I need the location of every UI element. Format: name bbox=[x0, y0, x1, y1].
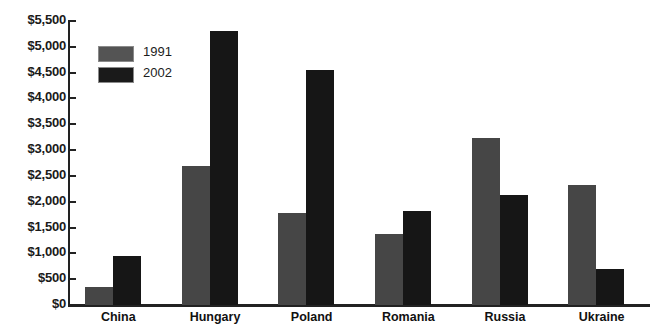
bar-group bbox=[553, 21, 650, 305]
bar-russia-1991 bbox=[472, 138, 500, 305]
legend-swatch-2002 bbox=[98, 67, 134, 83]
x-axis-label-poland: Poland bbox=[263, 310, 360, 324]
x-axis-label-hungary: Hungary bbox=[167, 310, 264, 324]
bar-group bbox=[263, 21, 360, 305]
bar-poland-1991 bbox=[278, 213, 306, 305]
chart-legend: 19912002 bbox=[98, 44, 218, 86]
legend-item-1991: 1991 bbox=[98, 44, 218, 62]
legend-label-2002: 2002 bbox=[143, 65, 172, 80]
bar-russia-2002 bbox=[500, 195, 528, 305]
x-axis-label-ukraine: Ukraine bbox=[553, 310, 650, 324]
bar-poland-2002 bbox=[306, 70, 334, 305]
y-axis-tick-label: $2,000 bbox=[0, 193, 66, 208]
y-axis-tick-label: $0 bbox=[0, 296, 66, 311]
legend-item-2002: 2002 bbox=[98, 65, 218, 83]
x-axis-label-russia: Russia bbox=[457, 310, 554, 324]
legend-swatch-1991 bbox=[98, 46, 134, 62]
y-axis-tick-label: $5,000 bbox=[0, 38, 66, 53]
y-axis-tick-label: $2,500 bbox=[0, 167, 66, 182]
y-axis-tick-label: $500 bbox=[0, 270, 66, 285]
y-axis-tick-label: $3,000 bbox=[0, 141, 66, 156]
bar-ukraine-1991 bbox=[568, 185, 596, 305]
bar-china-1991 bbox=[85, 287, 113, 305]
y-axis-tick-label: $5,500 bbox=[0, 12, 66, 27]
y-axis-tick-label: $1,000 bbox=[0, 244, 66, 259]
y-axis-tick-label: $3,500 bbox=[0, 115, 66, 130]
bar-romania-2002 bbox=[403, 211, 431, 305]
bar-ukraine-2002 bbox=[596, 269, 624, 305]
bar-chart: $0$500$1,000$1,500$2,000$2,500$3,000$3,5… bbox=[0, 0, 658, 334]
x-axis-label-romania: Romania bbox=[360, 310, 457, 324]
legend-label-1991: 1991 bbox=[143, 44, 172, 59]
y-axis-tick-label: $1,500 bbox=[0, 219, 66, 234]
bar-china-2002 bbox=[113, 256, 141, 305]
bar-romania-1991 bbox=[375, 234, 403, 305]
x-axis-label-china: China bbox=[70, 310, 167, 324]
bar-hungary-1991 bbox=[182, 166, 210, 305]
bar-group bbox=[360, 21, 457, 305]
y-axis-tick-label: $4,500 bbox=[0, 64, 66, 79]
y-axis-tick-label: $4,000 bbox=[0, 89, 66, 104]
bar-group bbox=[457, 21, 554, 305]
